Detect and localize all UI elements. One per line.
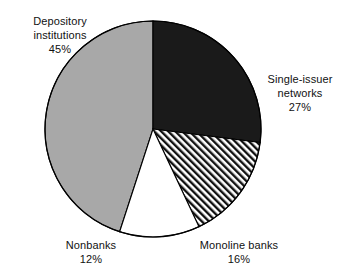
slice-label-line: institutions bbox=[8, 28, 112, 42]
slice-label-monoline-banks: Monoline banks 16% bbox=[185, 238, 293, 266]
pie-slice-single-issuer-networks[interactable] bbox=[153, 21, 261, 143]
pie-chart-figure: Depository institutions 45% Single-issue… bbox=[0, 0, 342, 276]
slice-label-single-issuer-networks: Single-issuer networks 27% bbox=[258, 72, 342, 114]
slice-label-percent: 12% bbox=[48, 252, 134, 266]
slice-label-line: Single-issuer bbox=[258, 72, 342, 86]
slice-label-nonbanks: Nonbanks 12% bbox=[48, 238, 134, 266]
slice-label-line: Nonbanks bbox=[48, 238, 134, 252]
slice-label-percent: 16% bbox=[185, 252, 293, 266]
slice-label-line: Depository bbox=[8, 14, 112, 28]
slice-label-percent: 45% bbox=[8, 42, 112, 56]
slice-label-depository-institutions: Depository institutions 45% bbox=[8, 14, 112, 56]
slice-label-line: Monoline banks bbox=[185, 238, 293, 252]
slice-label-line: networks bbox=[258, 86, 342, 100]
slice-label-percent: 27% bbox=[258, 100, 342, 114]
